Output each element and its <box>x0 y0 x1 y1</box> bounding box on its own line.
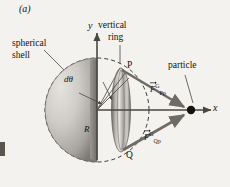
callout-vertical-ring-line2: ring <box>108 32 123 43</box>
particle-dot <box>187 106 195 114</box>
particle-callout-leader <box>185 75 193 103</box>
callout-spherical-shell-line2: shell <box>12 50 30 61</box>
x-axis-label: x <box>213 102 217 113</box>
point-q-label: Q <box>126 150 133 161</box>
callout-particle: particle <box>168 60 196 71</box>
callout-vertical-ring-line1: vertical <box>98 20 126 31</box>
radius-label: R <box>84 124 90 134</box>
force-subscript: Pp <box>160 90 166 96</box>
vector-arrow-icon <box>144 129 151 132</box>
force-label-Qp: FGQp <box>144 131 161 144</box>
page-edge-mark <box>0 142 5 156</box>
physics-figure-panel-a: (a) spherical shell vertical ring partic… <box>0 0 230 187</box>
vector-arrow-icon <box>150 81 157 84</box>
shell-callout-leader <box>44 50 64 70</box>
point-p-label: P <box>127 60 132 71</box>
force-subscript: Qp <box>154 138 161 144</box>
force-label-Pp: FGPp <box>150 83 166 96</box>
panel-letter: (a) <box>19 3 31 14</box>
y-axis-label: y <box>88 20 92 31</box>
dtheta-label: dθ <box>64 74 73 84</box>
callout-spherical-shell-line1: spherical <box>12 38 46 49</box>
force-base-symbol: F <box>144 132 149 142</box>
force-base-symbol: F <box>150 84 155 94</box>
